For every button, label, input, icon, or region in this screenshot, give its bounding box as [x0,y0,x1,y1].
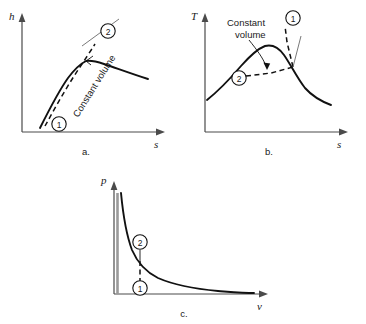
panel-b-x-axis-arrow [339,129,348,136]
panel-a-annotation-label: Constant volume [70,53,117,119]
panel-b-saturation-dome [207,45,331,105]
panel-a-marker-2-label: 2 [106,27,111,37]
panel-b-annotation-line-2: volume [235,29,266,40]
panel-c-plot: p v 2 1 c. [92,162,292,324]
panel-b-caption: b. [265,146,273,157]
thermodynamic-figure: h s Constant volume 1 2 a. [0,0,366,324]
panel-b-marker-1: 1 [286,11,300,25]
panel-c-y-axis-label: p [100,174,107,186]
panel-c-marker-1: 1 [133,281,147,295]
panel-b-process-line [285,26,293,67]
panel-c-x-axis-arrow [259,291,268,298]
panel-b-annotation-line-1: Constant [227,17,265,28]
panel-b-marker-2-label: 2 [237,74,242,84]
panel-a-marker-1-label: 1 [57,120,62,130]
panel-c-marker-2: 2 [133,235,147,249]
panel-c-x-axis-label: v [257,300,262,312]
panel-b: T s Constant volume 1 [183,0,366,162]
panel-a-marker-2: 2 [101,24,115,38]
panel-b-constant-volume-line [246,67,293,76]
panel-a-plot: h s Constant volume 1 2 a. [0,0,183,162]
panel-b-annotation-leader [249,40,266,66]
panel-c-marker-2-label: 2 [138,238,143,248]
panel-a-x-axis-arrow [156,129,165,136]
panel-b-plot: T s Constant volume 1 [183,0,366,162]
panel-b-annotation-arrowhead [263,63,270,70]
panel-c-caption: c. [180,308,187,319]
panel-a-marker-1: 1 [52,117,66,131]
panel-a-y-axis-arrow [19,13,26,22]
panel-a-caption: a. [82,146,90,157]
panel-c-y-axis-arrow [111,181,118,190]
panel-b-marker-2: 2 [232,71,246,85]
panel-c-marker-1-label: 1 [138,284,143,294]
panel-a-x-axis-label: s [154,138,158,150]
panel-b-y-axis-label: T [191,10,198,22]
panel-b-marker-1-label: 1 [291,14,296,24]
panel-a: h s Constant volume 1 2 a. [0,0,183,162]
panel-b-x-axis-label: s [337,138,341,150]
panel-c: p v 2 1 c. [92,162,292,324]
panel-b-y-axis-arrow [202,13,209,22]
panel-b-tangent-line [293,36,301,67]
panel-a-y-axis-label: h [9,10,15,22]
